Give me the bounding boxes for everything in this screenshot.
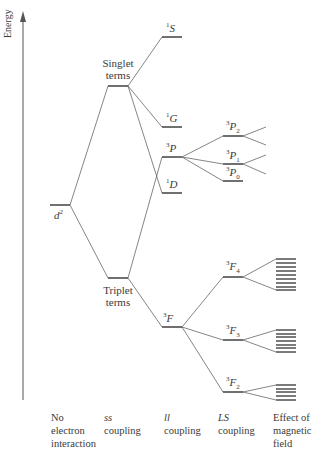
column-no-electron-interaction: No electron interaction xyxy=(51,411,96,450)
connector-lines xyxy=(70,37,276,400)
label-3P0: 3P0 xyxy=(226,165,240,181)
label-3P: 3P xyxy=(166,141,176,154)
col2-line0: coupling xyxy=(164,424,201,437)
col1-line0: coupling xyxy=(104,424,141,437)
triplet-line1: Triplet xyxy=(100,284,136,296)
col0-line0: No xyxy=(51,411,96,424)
label-1S: 1S xyxy=(166,21,175,34)
singlet-line1: Singlet xyxy=(100,57,136,69)
col4-line0: Effect of xyxy=(273,411,311,424)
zeeman-lines-3F2 xyxy=(276,385,296,400)
energy-level-diagram xyxy=(0,0,324,457)
column-LS-coupling: LS coupling xyxy=(218,411,255,437)
col3-line0: coupling xyxy=(218,424,255,437)
label-triplet-terms: Triplet terms xyxy=(100,284,136,308)
column-ss-coupling: ss coupling xyxy=(104,411,141,437)
col0-line2: interaction xyxy=(51,437,96,450)
label-3F2: 3F2 xyxy=(226,375,240,391)
level-bars xyxy=(50,37,243,392)
col2-italic: ll xyxy=(164,412,170,423)
col3-italic: LS xyxy=(218,412,229,423)
col1-italic: ss xyxy=(104,412,112,423)
column-magnetic-field: Effect of magnetic field xyxy=(273,411,311,450)
energy-axis xyxy=(20,11,26,400)
label-1G: 1G xyxy=(166,111,177,124)
label-3F: 3F xyxy=(163,311,173,324)
label-d2: d2 xyxy=(54,208,63,221)
zeeman-lines-3F3 xyxy=(276,330,296,352)
col4-line1: magnetic xyxy=(273,424,311,437)
label-3F3: 3F3 xyxy=(226,323,240,339)
column-ll-coupling: ll coupling xyxy=(164,411,201,437)
config-superscript: 2 xyxy=(60,208,64,216)
zeeman-lines-3F4 xyxy=(276,259,296,290)
col4-line2: field xyxy=(273,437,311,450)
triplet-line2: terms xyxy=(100,296,136,308)
singlet-line2: terms xyxy=(100,69,136,81)
label-3P1: 3P1 xyxy=(226,148,240,164)
label-3F4: 3F4 xyxy=(226,259,240,275)
label-1D: 1D xyxy=(166,177,177,190)
label-singlet-terms: Singlet terms xyxy=(100,57,136,81)
axis-label-energy: Energy xyxy=(2,9,13,38)
col0-line1: electron xyxy=(51,424,96,437)
label-3P2: 3P2 xyxy=(226,119,240,135)
